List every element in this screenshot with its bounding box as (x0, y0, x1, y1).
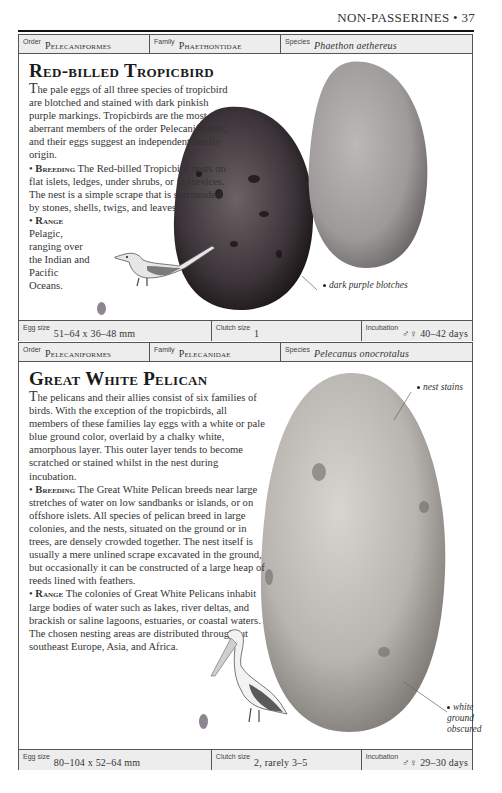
egg-size-label: Egg size (23, 324, 50, 331)
breeding-label: Breeding (35, 163, 75, 174)
order-label: Order (23, 38, 41, 45)
clutch-size-label: Clutch size (216, 324, 250, 331)
description: The pelicans and their allies consist of… (29, 390, 265, 653)
species-value: Pelecanus onocrotalus (314, 348, 409, 359)
clutch-size-value: 2, rarely 3–5 (254, 757, 307, 768)
family-cell: Family Pelecanidae (150, 343, 281, 361)
order-label: Order (23, 346, 41, 353)
egg-size-value: 80–104 x 52–64 mm (54, 757, 140, 768)
egg-light-icon (309, 62, 428, 268)
range-label: Range (35, 215, 63, 226)
breeding-label: Breeding (35, 484, 75, 495)
order-value: Pelecaniformes (45, 348, 111, 359)
order-value: Pelecaniformes (45, 40, 111, 51)
range-text: Pelagic, ranging over the Indian and Pac… (29, 227, 91, 292)
entry-footer: Egg size 80–104 x 52–64 mm Clutch size 2… (19, 749, 472, 770)
species-cell: Species Pelecanus onocrotalus (281, 343, 472, 361)
clutch-size-cell: Clutch size 1 (212, 321, 362, 341)
intro-text: he pelicans and their allies consist of … (29, 392, 265, 482)
egg-size-swatch (199, 714, 208, 729)
incubation-label: Incubation (366, 753, 398, 760)
range-label: Range (35, 588, 63, 599)
species-cell: Species Phaethon aethereus (281, 35, 472, 53)
egg-size-label: Egg size (23, 753, 50, 760)
callout-dark-purple-blotches: dark purple blotches (323, 280, 408, 291)
dropcap: T (29, 81, 38, 96)
pelican-illustration (209, 624, 294, 729)
callout-dot-icon (447, 706, 450, 709)
family-cell: Family Phaethontidae (150, 35, 281, 53)
entry-text: Great White Pelican The pelicans and the… (29, 368, 269, 653)
top-rule (18, 30, 474, 32)
egg-size-cell: Egg size 51–64 x 36–48 mm (19, 321, 212, 341)
dropcap: T (29, 389, 38, 404)
incubation-label: Incubation (366, 324, 398, 331)
family-label: Family (154, 346, 175, 353)
family-value: Pelecanidae (179, 348, 231, 359)
order-cell: Order Pelecaniformes (19, 35, 150, 53)
family-value: Phaethontidae (179, 40, 242, 51)
incubation-value: ♂♀ 29–30 days (402, 757, 468, 768)
clutch-size-value: 1 (254, 328, 259, 339)
callout-dot-icon (417, 386, 420, 389)
egg-size-cell: Egg size 80–104 x 52–64 mm (19, 750, 212, 770)
tropicbird-illustration (107, 242, 217, 308)
order-cell: Order Pelecaniformes (19, 343, 150, 361)
incubation-cell: Incubation ♂♀ 40–42 days (362, 321, 472, 341)
intro-text: he pale eggs of all three species of tro… (29, 84, 228, 160)
species-label: Species (285, 38, 310, 45)
entry-red-billed-tropicbird: Order Pelecaniformes Family Phaethontida… (18, 34, 473, 341)
species-title: Great White Pelican (29, 368, 269, 390)
entry-header: Order Pelecaniformes Family Pelecanidae … (19, 343, 472, 362)
callout-nest-stains: nest stains (417, 382, 463, 393)
callout-white-ground-obscured: white ground obscured (447, 702, 475, 735)
entry-body: Great White Pelican The pelicans and the… (19, 362, 472, 749)
entry-great-white-pelican: Order Pelecaniformes Family Pelecanidae … (18, 342, 473, 770)
incubation-cell: Incubation ♂♀ 29–30 days (362, 750, 472, 770)
family-label: Family (154, 38, 175, 45)
species-value: Phaethon aethereus (314, 40, 397, 51)
breeding-text: The Great White Pelican breeds near larg… (29, 484, 265, 587)
running-head: NON-PASSERINES • 37 (337, 10, 475, 26)
entry-body: Red-billed Tropicbird The pale eggs of a… (19, 54, 472, 320)
entry-header: Order Pelecaniformes Family Phaethontida… (19, 35, 472, 54)
callout-dot-icon (323, 284, 326, 287)
incubation-value: ♂♀ 40–42 days (402, 328, 468, 339)
egg-size-swatch (97, 302, 106, 315)
clutch-size-cell: Clutch size 2, rarely 3–5 (212, 750, 362, 770)
species-title: Red-billed Tropicbird (29, 60, 239, 82)
egg-size-value: 51–64 x 36–48 mm (54, 328, 135, 339)
clutch-size-label: Clutch size (216, 753, 250, 760)
species-label: Species (285, 346, 310, 353)
entry-footer: Egg size 51–64 x 36–48 mm Clutch size 1 … (19, 320, 472, 341)
